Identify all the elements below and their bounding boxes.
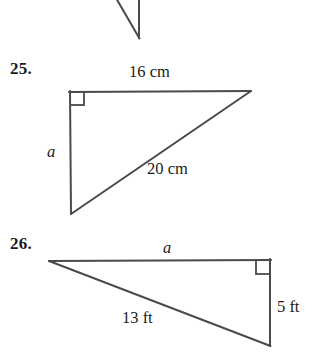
exercise-page: 25. 16 cm a 20 cm 26. a 13 ft 5 ft bbox=[0, 0, 311, 354]
right-angle-marker-26 bbox=[255, 261, 270, 274]
label-25-vertical-leg: a bbox=[47, 144, 55, 161]
problem-number-25: 25. bbox=[10, 60, 32, 77]
label-25-top-side: 16 cm bbox=[129, 64, 170, 81]
partial-triangle-top bbox=[116, 0, 140, 39]
right-angle-marker-25 bbox=[70, 92, 84, 106]
label-26-vertical-leg: 5 ft bbox=[277, 299, 299, 316]
problem-number-26: 26. bbox=[10, 235, 32, 252]
triangle-25 bbox=[69, 91, 251, 214]
label-26-top-side: a bbox=[163, 240, 171, 257]
triangle-26 bbox=[49, 259, 271, 346]
label-26-hypotenuse: 13 ft bbox=[122, 310, 153, 327]
label-25-hypotenuse: 20 cm bbox=[147, 161, 188, 178]
